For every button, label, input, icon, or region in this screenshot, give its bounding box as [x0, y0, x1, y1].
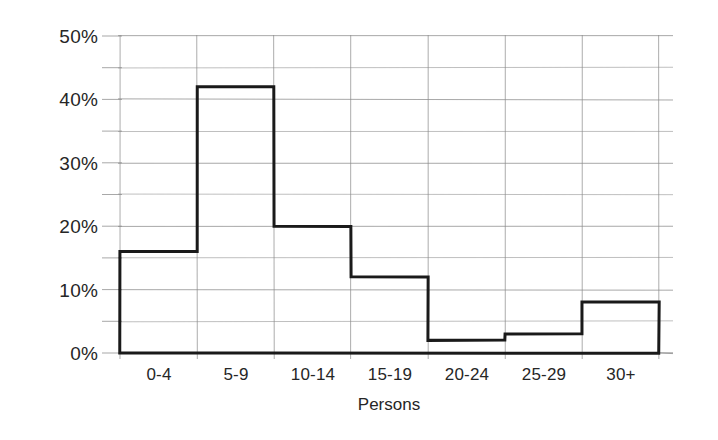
x-tick-label-0: 0-4 — [119, 366, 199, 383]
y-tick-label-0: 0% — [30, 344, 98, 363]
x-axis-title: Persons — [309, 396, 469, 413]
x-tick-label-6: 30+ — [581, 366, 661, 383]
y-tick-label-3: 30% — [30, 154, 98, 173]
x-tick-label-4: 20-24 — [427, 366, 507, 383]
minor-horizontal-gridlines — [118, 67, 673, 322]
x-tick-label-5: 25-29 — [504, 366, 584, 383]
y-tick-label-1: 10% — [30, 281, 98, 300]
y-tick-label-2: 20% — [30, 217, 98, 236]
y-tick-label-4: 40% — [30, 90, 98, 109]
vertical-gridlines — [120, 35, 659, 359]
x-tick-label-3: 15-19 — [350, 366, 430, 383]
histogram-step-outline — [120, 87, 659, 354]
y-tick-label-5: 50% — [30, 27, 98, 46]
x-tick-label-2: 10-14 — [273, 366, 353, 383]
histogram-chart: 0% 10% 20% 30% 40% 50% 0-4 5-9 10-14 15-… — [0, 0, 718, 440]
x-tick-label-1: 5-9 — [196, 366, 276, 383]
axis-lines — [659, 353, 673, 354]
